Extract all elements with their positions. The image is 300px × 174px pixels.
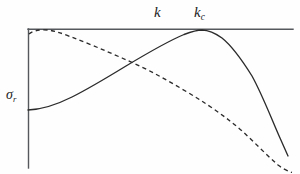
label-k-symbol: k — [154, 4, 161, 20]
solid-growth-curve — [28, 30, 288, 156]
label-kc-symbol: k — [194, 4, 201, 20]
y-axis-label-sigma-r: σr — [6, 88, 16, 102]
growth-rate-dispersion-figure: k kc σr — [0, 0, 300, 174]
plot-canvas — [0, 0, 300, 174]
label-sigma-symbol: σ — [6, 87, 13, 102]
dashed-growth-curve — [29, 30, 292, 173]
label-sigma-subscript: r — [13, 94, 16, 104]
x-axis-label-kc: kc — [194, 5, 205, 20]
label-kc-subscript: c — [201, 12, 205, 22]
x-axis-label-k: k — [154, 5, 161, 20]
